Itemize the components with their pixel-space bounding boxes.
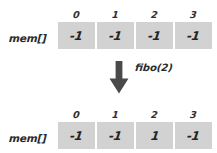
cell-index-2-after: 2 <box>135 108 173 122</box>
cell-box-2-before: -1 <box>136 22 173 49</box>
cell-value-1-after: -1 <box>108 130 122 142</box>
cell-0-after: 0 -1 <box>58 108 95 149</box>
cell-value-3-after: -1 <box>186 130 200 142</box>
cell-index-2-before: 2 <box>135 8 173 22</box>
array-label-after: mem[] <box>9 132 56 144</box>
cell-1-after: 1 -1 <box>97 108 134 149</box>
cell-3-after: 3 -1 <box>175 108 212 149</box>
cell-index-1-before: 1 <box>96 8 134 22</box>
cell-box-1-after: -1 <box>97 122 134 149</box>
cells-after: 0 -1 1 -1 2 1 3 -1 <box>58 108 212 149</box>
cell-box-1-before: -1 <box>97 22 134 49</box>
cell-index-0-before: 0 <box>57 8 95 22</box>
cell-index-1-after: 1 <box>96 108 134 122</box>
cell-box-3-before: -1 <box>175 22 212 49</box>
cell-value-0-before: -1 <box>69 30 83 42</box>
cell-2-before: 2 -1 <box>136 8 173 49</box>
memoization-diagram: mem[] 0 -1 1 -1 2 -1 3 <box>0 0 217 153</box>
cell-box-2-after: 1 <box>136 122 173 149</box>
arrow-down-icon <box>108 60 130 100</box>
cell-index-3-before: 3 <box>174 8 212 22</box>
cell-box-3-after: -1 <box>175 122 212 149</box>
transition-label: fibo(2) <box>134 62 173 73</box>
cell-box-0-after: -1 <box>58 122 95 149</box>
cell-index-0-after: 0 <box>57 108 95 122</box>
cell-value-2-before: -1 <box>147 30 161 42</box>
cell-1-before: 1 -1 <box>97 8 134 49</box>
transition-group: fibo(2) <box>108 60 217 100</box>
array-label-before: mem[] <box>9 32 56 44</box>
cell-box-0-before: -1 <box>58 22 95 49</box>
cell-index-3-after: 3 <box>174 108 212 122</box>
cell-3-before: 3 -1 <box>175 8 212 49</box>
cell-2-after: 2 1 <box>136 108 173 149</box>
cell-value-1-before: -1 <box>108 30 122 42</box>
cell-value-2-after: 1 <box>150 130 160 142</box>
cell-value-0-after: -1 <box>69 130 83 142</box>
cell-value-3-before: -1 <box>186 30 200 42</box>
cells-before: 0 -1 1 -1 2 -1 3 -1 <box>58 8 212 49</box>
cell-0-before: 0 -1 <box>58 8 95 49</box>
